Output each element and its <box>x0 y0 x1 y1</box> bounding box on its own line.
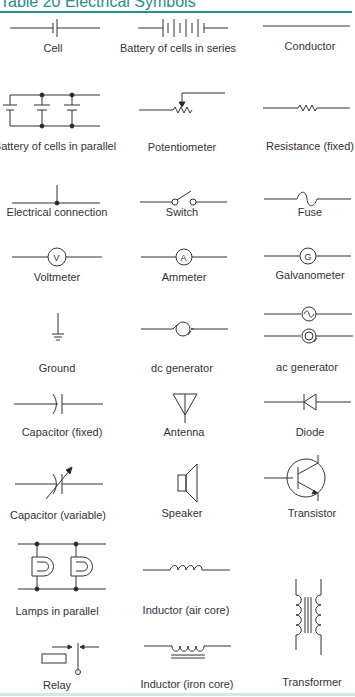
symbol-label: Inductor (air core) <box>143 604 230 616</box>
transistor-icon <box>260 455 355 510</box>
ac-generator-icon <box>260 305 355 350</box>
symbol-label: Electrical connection <box>7 206 108 218</box>
symbol-label: Diode <box>296 426 325 438</box>
speaker-icon <box>170 460 210 505</box>
symbol-label: Relay <box>43 679 71 691</box>
svg-text:V: V <box>54 253 60 263</box>
svg-text:A: A <box>181 253 187 263</box>
capacitor-fixed-icon <box>0 390 110 420</box>
ground-icon <box>40 310 70 345</box>
relay-icon <box>35 640 105 675</box>
symbol-label: Antenna <box>164 426 205 438</box>
lamps-parallel-icon <box>0 540 115 590</box>
junction-icon <box>0 175 110 210</box>
resistor-icon <box>260 100 355 115</box>
table-title: Table 20 Electrical Symbols <box>0 0 196 11</box>
antenna-icon <box>165 390 205 430</box>
inductor-iron-icon <box>140 640 235 665</box>
conductor-icon <box>0 15 355 35</box>
symbol-label: Speaker <box>162 507 203 519</box>
symbol-label: Resistance (fixed) <box>266 140 354 152</box>
potentiometer-icon <box>130 90 230 120</box>
symbol-label: Conductor <box>285 40 336 52</box>
dc-generator-icon <box>135 315 235 345</box>
symbol-label: Inductor (iron core) <box>141 678 234 690</box>
symbol-label: Ground <box>39 362 76 374</box>
symbol-label: Cell <box>44 42 63 54</box>
capacitor-variable-icon <box>0 465 110 505</box>
symbol-label: dc generator <box>151 362 213 374</box>
symbol-label: Transistor <box>288 507 337 519</box>
symbol-label: ac generator <box>276 361 338 373</box>
transformer-icon <box>285 575 335 660</box>
symbol-label: Galvanometer <box>275 269 344 281</box>
symbol-label: Potentiometer <box>148 141 216 153</box>
diode-icon <box>260 390 355 415</box>
inductor-air-icon <box>140 560 235 580</box>
symbol-label: Lamps in parallel <box>15 605 98 617</box>
symbol-label: Transformer <box>282 676 342 688</box>
symbol-label: Voltmeter <box>34 271 80 283</box>
symbol-label: Battery of cells in parallel <box>0 140 116 152</box>
svg-text:G: G <box>305 252 312 262</box>
symbol-label: Switch <box>166 206 198 218</box>
battery-parallel-icon <box>0 90 120 130</box>
symbol-label: Capacitor (variable) <box>10 509 106 521</box>
galvanometer-icon: G <box>260 245 355 270</box>
symbol-label: Fuse <box>298 206 322 218</box>
symbol-label: Ammeter <box>162 271 207 283</box>
symbol-label: Capacitor (fixed) <box>22 426 103 438</box>
ammeter-icon: A <box>135 245 235 270</box>
title-underline <box>0 11 352 13</box>
symbol-label: Battery of cells in series <box>120 42 236 54</box>
bottom-border <box>0 693 355 696</box>
voltmeter-icon: V <box>0 245 110 270</box>
